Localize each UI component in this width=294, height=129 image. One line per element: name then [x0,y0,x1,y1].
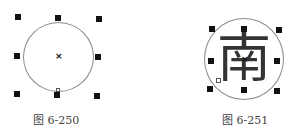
handle-top-left[interactable] [209,26,215,32]
handle-bottom-center[interactable] [241,87,247,93]
handle-top-center[interactable] [241,26,247,32]
handle-top-left[interactable] [15,14,21,20]
figure-caption: 图 6-250 [33,111,79,127]
handle-middle-right[interactable] [95,54,101,60]
figure-caption: 图 6-251 [222,111,268,127]
node-anchor[interactable] [216,78,221,83]
figure-6-250: × 图 6-250 [0,0,147,129]
handle-middle-right[interactable] [274,58,280,64]
handle-top-center[interactable] [55,15,61,21]
center-marker-icon: × [55,52,63,61]
handle-middle-left[interactable] [208,58,214,64]
handle-bottom-center[interactable] [54,92,60,98]
figure-6-251: 南 × 图 6-251 [147,0,294,129]
handle-bottom-right[interactable] [94,93,100,99]
center-marker-icon: × [241,55,249,64]
handle-top-right[interactable] [96,16,102,22]
handle-bottom-left[interactable] [14,91,20,97]
handle-bottom-left[interactable] [207,86,213,92]
handle-bottom-right[interactable] [274,88,280,94]
node-bottom[interactable] [56,88,60,92]
handle-top-right[interactable] [276,27,282,33]
handle-middle-left[interactable] [14,53,20,59]
